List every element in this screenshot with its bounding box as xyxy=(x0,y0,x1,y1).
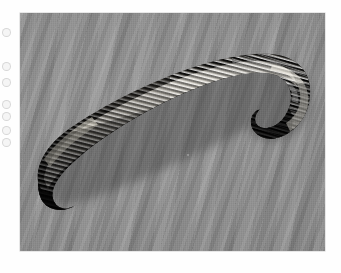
scan-artifact-mark xyxy=(2,126,11,135)
scan-artifact-mark xyxy=(2,28,11,37)
scan-artifact-mark xyxy=(2,100,11,109)
scan-artifacts xyxy=(0,0,18,273)
scan-artifact-mark xyxy=(2,62,11,71)
scan-artifact-mark xyxy=(2,138,11,147)
scan-artifact-mark xyxy=(2,112,11,121)
photo-film-grain xyxy=(20,13,325,251)
scanned-page xyxy=(0,0,341,273)
scan-artifact-mark xyxy=(2,78,11,87)
leech-specimen-photograph xyxy=(20,13,325,251)
